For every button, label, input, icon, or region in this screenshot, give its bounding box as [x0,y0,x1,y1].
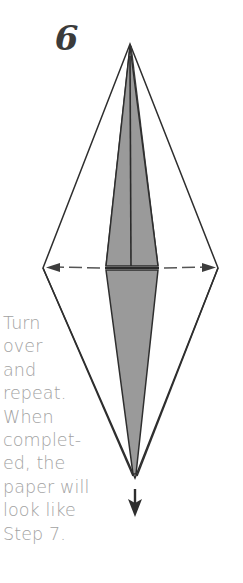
center-ridge-line [130,56,131,266]
instruction-caption: Turn over and repeat. When complet- ed, … [3,312,105,546]
caption-line: Step 7. [3,523,105,546]
caption-line: over [3,335,105,358]
caption-line: When [3,406,105,429]
caption-line: ed, the [3,452,105,475]
turn-over-arrow-icon [128,489,142,517]
caption-line: repeat. [3,382,105,405]
caption-line: look like [3,499,105,522]
caption-line: complet- [3,429,105,452]
caption-line: and [3,359,105,382]
caption-line: paper will [3,476,105,499]
caption-line: Turn [3,312,105,335]
origami-step-figure: 6 [0,0,243,583]
